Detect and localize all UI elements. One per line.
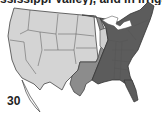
florida xyxy=(124,80,138,102)
figure-number: 30 xyxy=(7,94,20,108)
us-map xyxy=(0,0,162,116)
